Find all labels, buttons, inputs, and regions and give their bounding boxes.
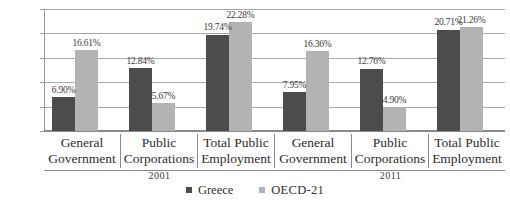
x-axis-categories: General Government Public Corporations T… <box>44 131 505 171</box>
category-label: Total Public Employment <box>429 132 505 170</box>
legend-item-oecd-21: OECD-21 <box>259 183 324 197</box>
bar-value-label: 6.90% <box>41 85 86 96</box>
bar-oecd <box>229 22 252 131</box>
bar-greece <box>283 92 306 131</box>
bar-value-label: 22.28% <box>218 10 263 21</box>
gridline <box>44 58 505 59</box>
bar-value-label: 12.76% <box>349 56 394 67</box>
bar-value-label: 4.90% <box>372 95 417 106</box>
bar-value-label: 12.84% <box>118 56 163 67</box>
category-label-line2: Government <box>279 151 346 167</box>
group-label-2011: 2011 <box>275 170 506 182</box>
legend-swatch-icon <box>259 187 265 193</box>
bar-greece <box>52 97 75 131</box>
category-label-line1: General <box>292 135 335 151</box>
bar-oecd <box>383 107 406 131</box>
category-label-line2: Government <box>48 151 115 167</box>
plot-area: 6.90% 16.61% 12.84% 5.67% 19.74% 22.28% … <box>44 9 505 131</box>
bar-oecd <box>306 51 329 131</box>
category-label-line1: Public <box>373 135 408 151</box>
gridline <box>44 107 505 108</box>
category-label: General Government <box>44 132 120 170</box>
bar-greece <box>437 30 460 131</box>
bar-greece <box>206 35 229 131</box>
category-label-line2: Corporations <box>355 151 426 167</box>
category-label-line2: Corporations <box>124 151 195 167</box>
bar-value-label: 21.26% <box>449 15 494 26</box>
legend: Greece OECD-21 <box>0 183 510 197</box>
bar-oecd <box>460 27 483 131</box>
bar-chart: 25% 20% 15% 10% 5% 0% 6.90% 16.61% 12.84 <box>0 0 510 206</box>
category-label-line1: Total Public <box>434 135 499 151</box>
category-label-line1: General <box>61 135 104 151</box>
category-label-line2: Employment <box>432 151 502 167</box>
category-label-line1: Total Public <box>203 135 268 151</box>
gridline <box>44 33 505 34</box>
category-label: Public Corporations <box>121 132 197 170</box>
category-label-line1: Public <box>142 135 177 151</box>
legend-swatch-icon <box>186 187 192 193</box>
category-label: General Government <box>275 132 351 170</box>
legend-label: Greece <box>198 183 233 197</box>
bar-value-label: 16.61% <box>64 38 109 49</box>
category-label: Total Public Employment <box>198 132 274 170</box>
category-label-line2: Employment <box>201 151 271 167</box>
bar-value-label: 5.67% <box>141 91 186 102</box>
bar-value-label: 7.95% <box>272 80 317 91</box>
bar-oecd <box>152 103 175 131</box>
bar-value-label: 16.36% <box>295 39 340 50</box>
bar-value-label: 19.74% <box>195 22 240 33</box>
gridline <box>44 9 505 10</box>
category-label: Public Corporations <box>352 132 428 170</box>
legend-item-greece: Greece <box>186 183 233 197</box>
group-label-2001: 2001 <box>44 170 275 182</box>
legend-label: OECD-21 <box>271 183 324 197</box>
